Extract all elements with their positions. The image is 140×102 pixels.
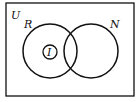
- universe-rect: [6, 3, 134, 96]
- set-n-label: N: [109, 18, 120, 31]
- set-i-label: I: [46, 46, 52, 59]
- venn-diagram: U R N I: [0, 0, 140, 102]
- set-r-label: R: [23, 18, 32, 31]
- universe-label: U: [11, 9, 21, 22]
- set-n-circle: [64, 24, 118, 78]
